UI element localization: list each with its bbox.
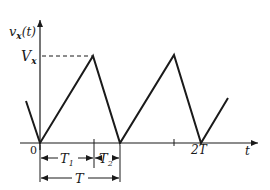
label-2T: 2T [190,143,208,157]
origin-label: 0 [30,144,37,157]
label-T2: T2 [99,151,113,168]
peak-label: Vx [21,48,37,66]
label-T1: T1 [60,151,74,168]
triangular-waveform [26,55,228,143]
label-T: T [75,171,85,186]
x-axis-label: t [245,144,250,158]
waveform-diagram: T1 T2 T vx(t) Vx 0 2T t [0,0,270,190]
y-axis-label: vx(t) [9,24,36,41]
